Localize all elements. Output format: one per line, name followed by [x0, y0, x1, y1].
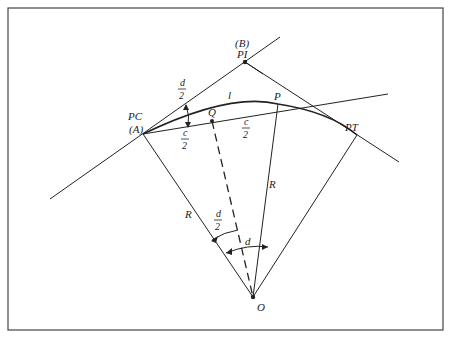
- curve-arc: [143, 101, 357, 135]
- radius-label-2: R: [268, 178, 276, 190]
- q-point: [210, 119, 214, 123]
- radius-label-1: R: [184, 208, 192, 220]
- a-label: (A): [129, 123, 143, 136]
- o-point: [251, 295, 255, 299]
- half-angle-den: 2: [215, 221, 220, 232]
- chord-num-2: c: [244, 116, 249, 127]
- half-angle-num: d: [216, 208, 222, 219]
- central-angle-arc: [226, 246, 268, 253]
- p-label: P: [273, 90, 281, 102]
- radius-p-o: [253, 104, 278, 297]
- o-label: O: [257, 301, 265, 313]
- radius-pt-o: [253, 135, 357, 297]
- chord-num-1: c: [183, 127, 188, 138]
- q-label: Q: [208, 106, 216, 118]
- central-angle-label: d: [245, 235, 251, 247]
- pi-point: [243, 60, 247, 64]
- chord-den-2: 2: [243, 129, 248, 140]
- chord-den-1: 2: [182, 140, 187, 151]
- pi-segment: [245, 62, 263, 74]
- deflection-num: d: [180, 77, 186, 88]
- curve-diagram: (B) PI PC (A) P PT Q O l R R d 2 c 2 c 2…: [0, 0, 449, 339]
- radius-a-o: [143, 134, 253, 297]
- pi-label: PI: [236, 48, 249, 60]
- pt-label: PT: [344, 121, 359, 133]
- forward-tangent-line: [245, 62, 399, 162]
- frame: [8, 8, 443, 330]
- arc-label: l: [228, 89, 231, 101]
- deflection-den: 2: [179, 90, 184, 101]
- pc-label: PC: [127, 110, 143, 122]
